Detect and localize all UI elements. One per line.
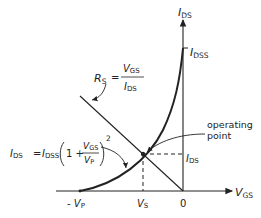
- svg-text:VGS: VGS: [123, 63, 140, 75]
- svg-text:VP: VP: [84, 155, 94, 166]
- operating-point-label: operating point: [207, 119, 253, 141]
- jfet-bias-diagram: IDS VGS IDSS RS = VGS IDS IDS = IDSS 1 +: [0, 0, 261, 218]
- svg-text:point: point: [207, 130, 232, 141]
- ids-level-label: IDS: [186, 153, 199, 165]
- ids-formula: IDS = IDSS 1 + VGS VP 2: [10, 134, 111, 166]
- svg-text:=: =: [111, 72, 119, 83]
- svg-text:RS: RS: [94, 72, 107, 86]
- svg-text:=: =: [33, 148, 41, 159]
- x-axis-label: VGS: [235, 186, 253, 200]
- rs-formula: RS = VGS IDS: [94, 63, 144, 93]
- svg-text:VGS: VGS: [83, 141, 98, 152]
- rs-arrow: [92, 84, 106, 100]
- operating-point-dot: [141, 152, 145, 156]
- tick-minus-vp: - VP: [67, 198, 85, 210]
- y-axis-label: IDS: [178, 6, 192, 20]
- svg-text:IDSS: IDSS: [42, 148, 60, 160]
- svg-text:operating: operating: [207, 119, 253, 130]
- idss-label: IDSS: [190, 46, 209, 60]
- ids-formula-arrow: [101, 147, 126, 168]
- tick-zero: 0: [180, 198, 186, 209]
- svg-text:1 +: 1 +: [66, 148, 84, 159]
- svg-text:2: 2: [106, 134, 111, 143]
- vp-dot: [79, 190, 82, 193]
- svg-text:IDS: IDS: [124, 81, 137, 93]
- tick-vs: VS: [137, 198, 149, 210]
- svg-text:IDS: IDS: [10, 148, 23, 160]
